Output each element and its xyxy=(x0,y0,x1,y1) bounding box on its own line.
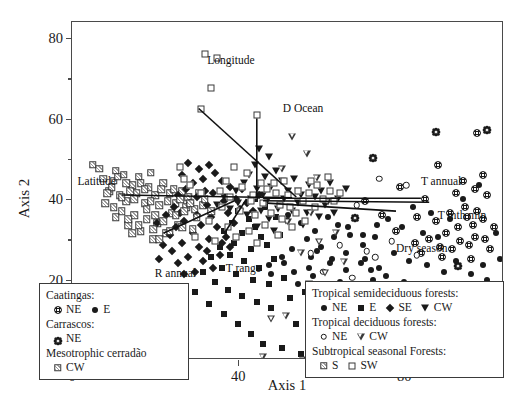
legend-symbol-diamond xyxy=(384,302,395,313)
legend-entry-label: NE xyxy=(332,300,347,315)
legend-group-title: Subtropical seasonal Forests: xyxy=(312,344,496,358)
y-axis-tick xyxy=(68,78,72,79)
legend-entry-row: NE xyxy=(46,331,181,346)
legend-entry-row: NECW xyxy=(312,329,496,344)
legend-entry-label: NE xyxy=(66,331,81,346)
y-axis-tick-label: 40 xyxy=(49,191,64,208)
legend-group-title: Carrascos: xyxy=(46,317,181,331)
y-axis-title: Axis 2 xyxy=(16,129,33,269)
legend-symbol-flower xyxy=(52,333,63,344)
legend-symbol-circle-open xyxy=(318,331,329,342)
legend-symbol-circle-hatched xyxy=(52,304,63,315)
marker-triangle-open xyxy=(357,333,365,340)
marker-square-hatched xyxy=(320,362,328,370)
legend-forest-types: Tropical semideciduous forests:NEESECWTr… xyxy=(305,281,504,378)
marker-square-open xyxy=(348,362,355,369)
vector-label: T annual xyxy=(421,175,461,187)
marker-square-hatched xyxy=(54,364,62,372)
y-axis-tick xyxy=(66,38,72,39)
legend-symbol-square-filled xyxy=(355,302,366,313)
legend-entry-label: E xyxy=(369,300,376,315)
vector-label: D Ocean xyxy=(283,102,324,114)
y-axis-tick xyxy=(66,119,72,120)
vector-label: Dry season xyxy=(396,242,447,254)
legend-entry-label: SW xyxy=(360,358,377,373)
marker-circle-filled xyxy=(321,305,327,311)
x-axis-tick xyxy=(238,360,239,366)
vector-line xyxy=(267,203,396,211)
legend-group-title: Tropical deciduous forests: xyxy=(312,315,496,329)
legend-symbol-circle-filled xyxy=(89,304,100,315)
marker-flower xyxy=(53,334,62,343)
y-axis-tick xyxy=(68,239,72,240)
legend-entry-row: NEE xyxy=(46,302,181,317)
legend-caatingas-carrascos-cerradao: Caatingas:NEECarrascos:NEMesotrophic cer… xyxy=(39,283,189,380)
legend-symbol-triangle-open xyxy=(355,331,366,342)
vector-line xyxy=(122,195,292,198)
legend-entry-row: CW xyxy=(46,360,181,375)
legend-group-title: Tropical semideciduous forests: xyxy=(312,286,496,300)
legend-entry-row: SSW xyxy=(312,358,496,373)
marker-circle-open xyxy=(320,333,327,340)
vector-label: Longitude xyxy=(207,54,254,66)
legend-entry-row: NEESECW xyxy=(312,300,496,315)
vector-line xyxy=(163,201,234,233)
y-axis-tick xyxy=(68,159,72,160)
vector-label: T mth min xyxy=(438,209,486,221)
y-axis-tick-label: 60 xyxy=(49,110,64,127)
legend-symbol-square-hatched xyxy=(52,362,63,373)
legend-entry-label: S xyxy=(332,358,338,373)
legend-entry-label: CW xyxy=(369,329,388,344)
vector-line xyxy=(263,201,429,203)
legend-entry-label: CW xyxy=(66,360,85,375)
y-axis-tick xyxy=(66,199,72,200)
legend-symbol-triangle-filled xyxy=(420,302,431,313)
legend-group-title: Mesotrophic cerradão xyxy=(46,346,181,360)
marker-circle-hatched xyxy=(54,306,62,314)
legend-symbol-square-hatched xyxy=(318,360,329,371)
vector-line xyxy=(199,109,297,198)
vector-label: T range xyxy=(226,262,261,274)
legend-entry-label: CW xyxy=(434,300,453,315)
legend-entry-label: E xyxy=(103,302,110,317)
legend-entry-label: SE xyxy=(398,300,411,315)
legend-entry-label: NE xyxy=(332,329,347,344)
vector-label: R annual xyxy=(155,267,196,279)
legend-symbol-square-open xyxy=(346,360,357,371)
y-axis-tick xyxy=(66,280,72,281)
legend-symbol-circle-filled xyxy=(318,302,329,313)
vector-label: Latitude xyxy=(78,175,116,187)
y-axis-tick-label: 80 xyxy=(49,30,64,47)
legend-group-title: Caatingas: xyxy=(46,288,181,302)
legend-entry-label: NE xyxy=(66,302,81,317)
marker-square-filled xyxy=(358,305,364,311)
ordination-chart: Axis 2 LongitudeD OceanLatitudeR annualT… xyxy=(0,0,526,410)
marker-diamond xyxy=(386,303,394,311)
marker-circle-filled xyxy=(92,307,98,313)
marker-triangle-filled xyxy=(421,304,429,311)
